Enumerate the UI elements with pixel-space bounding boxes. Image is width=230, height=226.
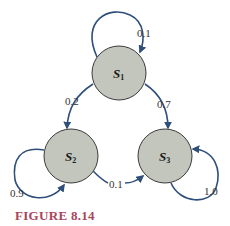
- label-s2-s2: 0.9: [10, 187, 24, 199]
- node-s1: S1: [92, 46, 146, 100]
- label-s2-s3: 0.1: [109, 178, 123, 190]
- label-s3-s3: 1.0: [204, 185, 218, 197]
- markov-chain-diagram: S1 S2 S3 0.1 0.2 0.7 0.9 0.1 1.0 FIGURE …: [0, 0, 230, 226]
- edge-s2-s3-tail: [125, 176, 143, 183]
- label-s1-s1: 0.1: [137, 27, 151, 39]
- node-s3-letter: S: [159, 149, 166, 164]
- label-s1-s2: 0.2: [65, 95, 79, 107]
- node-s3: S3: [138, 129, 192, 183]
- label-s1-s3: 0.7: [157, 98, 171, 110]
- node-s3-sub: 3: [166, 156, 170, 165]
- node-s2-sub: 2: [72, 156, 76, 165]
- node-s2-letter: S: [65, 149, 72, 164]
- node-s2: S2: [44, 129, 98, 183]
- node-s1-sub: 1: [120, 73, 124, 82]
- edge-s2-s3: [93, 171, 108, 183]
- figure-caption: FIGURE 8.14: [15, 208, 95, 223]
- node-s1-letter: S: [113, 66, 120, 81]
